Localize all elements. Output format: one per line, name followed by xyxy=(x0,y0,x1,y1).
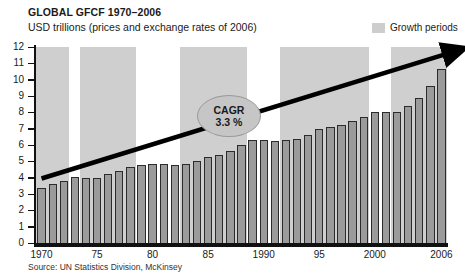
bar-cell xyxy=(80,47,91,243)
y-tick xyxy=(28,161,34,163)
bar xyxy=(248,140,256,243)
bar xyxy=(415,98,423,243)
bar xyxy=(71,177,79,243)
y-tick-label: 11 xyxy=(0,58,24,68)
plot-area xyxy=(36,47,447,243)
bar-cell xyxy=(403,47,414,243)
y-tick xyxy=(28,79,34,81)
bar xyxy=(282,140,290,243)
bar-cell xyxy=(347,47,358,243)
y-tick xyxy=(28,194,34,196)
bar xyxy=(49,184,57,243)
legend-label-growth-periods: Growth periods xyxy=(390,22,458,33)
x-tick-label: 1990 xyxy=(253,249,275,260)
bar xyxy=(437,69,445,243)
bar xyxy=(426,86,434,243)
bar xyxy=(37,188,45,243)
bar xyxy=(182,164,190,243)
y-tick xyxy=(28,145,34,147)
bar-cell xyxy=(192,47,203,243)
y-tick-label: 6 xyxy=(0,140,24,150)
y-tick-label: 8 xyxy=(0,107,24,117)
chart-subtitle: USD trillions (prices and exchange rates… xyxy=(28,21,257,33)
bar xyxy=(293,139,301,243)
bar xyxy=(404,106,412,243)
cagr-value: 3.3 % xyxy=(216,116,243,128)
y-tick xyxy=(28,112,34,114)
bar-cell xyxy=(392,47,403,243)
y-tick-label: 2 xyxy=(0,205,24,215)
bar xyxy=(137,165,145,243)
x-tick-label: 2000 xyxy=(364,249,386,260)
bar-cell xyxy=(236,47,247,243)
y-tick-label: 7 xyxy=(0,124,24,134)
cagr-label: CAGR xyxy=(214,104,245,116)
y-tick-label: 0 xyxy=(0,238,24,248)
bar xyxy=(82,178,90,243)
bar xyxy=(260,140,268,243)
x-tick-label: 1970 xyxy=(30,249,52,260)
y-tick xyxy=(28,210,34,212)
bar xyxy=(60,181,68,243)
bar-cell xyxy=(125,47,136,243)
x-axis-line xyxy=(34,243,448,247)
bar-cell xyxy=(92,47,103,243)
bar xyxy=(126,167,134,243)
y-tick-label: 10 xyxy=(0,75,24,85)
bar xyxy=(193,161,201,243)
bar xyxy=(160,164,168,243)
bar-series xyxy=(36,47,447,243)
y-tick xyxy=(28,96,34,98)
bar-cell xyxy=(169,47,180,243)
bar-cell xyxy=(369,47,380,243)
y-tick-label: 4 xyxy=(0,173,24,183)
bar-cell xyxy=(214,47,225,243)
bar-cell xyxy=(36,47,47,243)
bar-cell xyxy=(247,47,258,243)
x-tick-label: 80 xyxy=(147,249,158,260)
y-tick xyxy=(28,226,34,228)
bar xyxy=(215,155,223,243)
page-title: GLOBAL GFCF 1970–2006 xyxy=(28,6,161,18)
legend: Growth periods xyxy=(372,22,458,33)
bar xyxy=(393,112,401,243)
bar xyxy=(304,135,312,243)
bar-cell xyxy=(114,47,125,243)
cagr-callout: CAGR 3.3 % xyxy=(197,95,261,137)
x-tick-label: 2006 xyxy=(430,249,452,260)
legend-swatch-growth-periods xyxy=(372,23,385,33)
bar-cell xyxy=(147,47,158,243)
bar xyxy=(382,112,390,243)
y-tick-label: 1 xyxy=(0,222,24,232)
bar xyxy=(348,121,356,243)
bar-cell xyxy=(69,47,80,243)
bar-cell xyxy=(136,47,147,243)
bar-cell xyxy=(280,47,291,243)
bar-cell xyxy=(203,47,214,243)
bar-cell xyxy=(303,47,314,243)
bar xyxy=(326,127,334,243)
bar xyxy=(226,151,234,243)
y-tick xyxy=(28,177,34,179)
y-tick xyxy=(28,128,34,130)
bar xyxy=(148,164,156,243)
bar-cell xyxy=(258,47,269,243)
bar xyxy=(115,171,123,243)
bar-cell xyxy=(225,47,236,243)
y-tick-label: 9 xyxy=(0,91,24,101)
bar xyxy=(93,178,101,243)
bar-cell xyxy=(292,47,303,243)
bar-cell xyxy=(103,47,114,243)
x-tick-label: 85 xyxy=(203,249,214,260)
bar xyxy=(315,129,323,243)
bar-cell xyxy=(380,47,391,243)
bar-cell xyxy=(325,47,336,243)
bar-cell xyxy=(336,47,347,243)
bar xyxy=(104,174,112,243)
y-tick-label: 5 xyxy=(0,156,24,166)
bar xyxy=(337,125,345,243)
bar-cell xyxy=(436,47,447,243)
bar xyxy=(371,112,379,243)
bar-cell xyxy=(358,47,369,243)
bar xyxy=(171,165,179,243)
